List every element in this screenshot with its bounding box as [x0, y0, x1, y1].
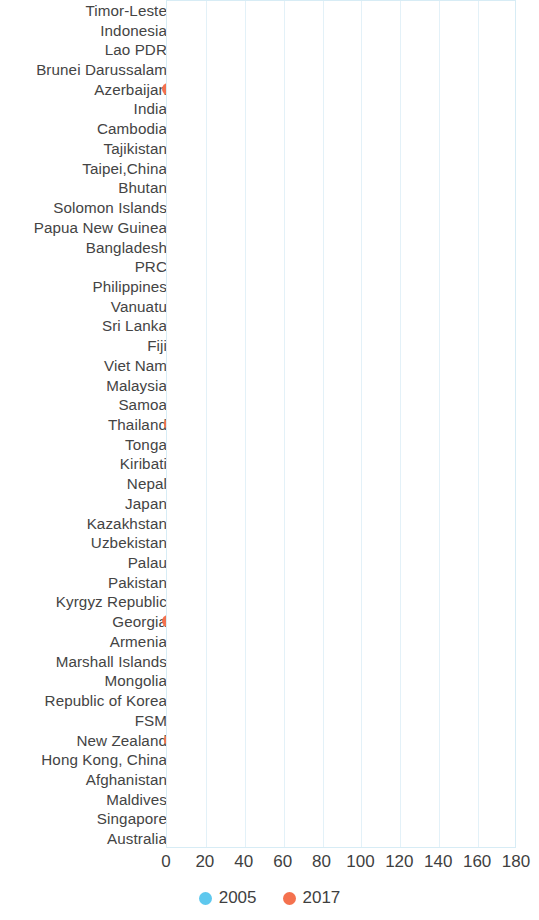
category-label: Tonga	[125, 435, 167, 452]
category-label: Fiji	[147, 337, 167, 354]
category-label: Bangladesh	[86, 238, 167, 255]
gridline	[206, 1, 207, 847]
category-label: Lao PDR	[105, 41, 167, 58]
category-label: FSM	[135, 711, 167, 728]
category-label: Australia	[107, 830, 167, 847]
category-label: Singapore	[97, 810, 167, 827]
category-label: Tajikistan	[104, 139, 167, 156]
category-label: Afghanistan	[86, 770, 167, 787]
legend-label: 2017	[303, 888, 341, 908]
gridline	[478, 1, 479, 847]
legend-item[interactable]: 2005	[199, 888, 257, 908]
category-label: Armenia	[110, 632, 167, 649]
chart-legend: 20052017	[0, 888, 539, 908]
plot-area	[166, 0, 516, 848]
category-label: Georgia	[112, 613, 167, 630]
category-label: Palau	[128, 554, 167, 571]
x-tick-label: 120	[385, 852, 413, 872]
x-tick-label: 20	[195, 852, 214, 872]
category-label: Papua New Guinea	[34, 218, 167, 235]
category-label: Uzbekistan	[91, 534, 167, 551]
category-label: Vanuatu	[111, 297, 167, 314]
category-label: Philippines	[92, 277, 167, 294]
category-label: Sri Lanka	[102, 317, 167, 334]
category-label: Taipei,China	[82, 159, 167, 176]
category-label: PRC	[135, 258, 167, 275]
category-label: Marshall Islands	[56, 652, 167, 669]
category-label: Republic of Korea	[45, 692, 167, 709]
category-label: Samoa	[118, 396, 167, 413]
x-tick-label: 160	[463, 852, 491, 872]
category-label: Nepal	[127, 475, 167, 492]
gridline	[323, 1, 324, 847]
x-tick-label: 60	[273, 852, 292, 872]
category-label: Timor-Leste	[85, 1, 167, 18]
category-label: Brunei Darussalam	[36, 61, 167, 78]
category-label: India	[134, 100, 167, 117]
legend-dot-icon	[199, 892, 212, 905]
x-tick-label: 80	[312, 852, 331, 872]
category-label: Bhutan	[118, 179, 167, 196]
legend-label: 2005	[219, 888, 257, 908]
category-label: Cambodia	[97, 120, 167, 137]
x-axis: 020406080100120140160180	[166, 848, 516, 878]
x-tick-label: 180	[502, 852, 530, 872]
x-tick-label: 40	[234, 852, 253, 872]
category-label: Hong Kong, China	[41, 751, 167, 768]
category-label: Kiribati	[120, 455, 167, 472]
category-label: Thailand	[108, 415, 167, 432]
gridline	[439, 1, 440, 847]
legend-dot-icon	[283, 892, 296, 905]
category-label: Japan	[125, 494, 167, 511]
legend-item[interactable]: 2017	[283, 888, 341, 908]
gridline	[245, 1, 246, 847]
category-label: Malaysia	[106, 376, 167, 393]
category-label: Solomon Islands	[53, 199, 167, 216]
x-tick-label: 100	[346, 852, 374, 872]
category-label: Kyrgyz Republic	[56, 593, 167, 610]
category-label: New Zealand	[76, 731, 167, 748]
gridline	[284, 1, 285, 847]
x-tick-label: 140	[424, 852, 452, 872]
gridline	[400, 1, 401, 847]
category-label: Viet Nam	[104, 356, 167, 373]
gridline	[361, 1, 362, 847]
dumbbell-arrow-chart: Timor-LesteIndonesiaLao PDRBrunei Daruss…	[0, 0, 539, 920]
category-label: Pakistan	[108, 573, 167, 590]
category-label: Mongolia	[105, 672, 167, 689]
category-label: Kazakhstan	[87, 514, 167, 531]
x-tick-label: 0	[161, 852, 170, 872]
category-label: Maldives	[106, 790, 167, 807]
category-label: Azerbaijan	[94, 80, 167, 97]
category-label: Indonesia	[100, 21, 167, 38]
